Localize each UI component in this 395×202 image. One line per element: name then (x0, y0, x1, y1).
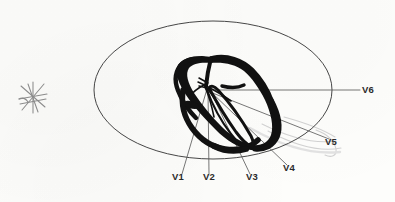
lead-label-v5: V5 (325, 137, 337, 147)
asterisk-hook (19, 98, 28, 102)
lead-label-v4: V4 (283, 163, 295, 173)
diagram-canvas: V1 V2 V3 V4 V5 V6 (0, 0, 395, 202)
erased-pencil-arc-3 (284, 117, 335, 137)
diagram-svg (0, 0, 395, 202)
lead-label-v1: V1 (172, 172, 184, 182)
lead-label-v3: V3 (246, 172, 258, 182)
lead-label-v6: V6 (362, 85, 374, 95)
leader-line-v2 (208, 89, 209, 174)
lead-label-v2: V2 (203, 172, 215, 182)
asterisk-mark (19, 82, 47, 113)
heart-vessel-stub (222, 85, 244, 87)
